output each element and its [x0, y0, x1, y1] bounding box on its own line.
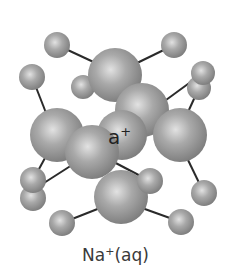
hydrogen-atom — [49, 210, 75, 236]
center-ion-label: a+ — [108, 124, 131, 149]
hydrogen-atom — [20, 167, 46, 193]
hydrogen-atom — [168, 209, 194, 235]
hydrogen-atom — [191, 61, 215, 85]
hydrogen-atom — [137, 168, 163, 194]
oxygen-atom — [153, 108, 207, 162]
diagram-caption: Na+(aq) — [0, 245, 231, 265]
hydrogen-atom — [191, 180, 217, 206]
hydrogen-atom — [19, 64, 45, 90]
hydrogen-atom — [161, 32, 187, 58]
hydrogen-atom — [44, 32, 70, 58]
